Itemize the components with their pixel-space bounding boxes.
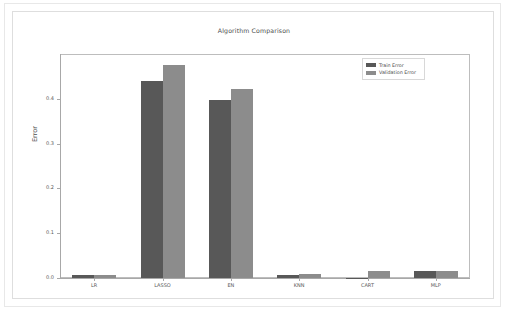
y-tick-label: 0.0 [46, 274, 54, 280]
y-tick-label: 0.4 [46, 95, 54, 101]
plot-area [60, 54, 470, 278]
x-tick-label: CART [346, 282, 390, 288]
bar-validation-error [231, 89, 253, 278]
legend-label-train: Train Error [379, 63, 404, 68]
x-tick-mark [163, 278, 164, 281]
bar-group: LR [72, 54, 116, 278]
x-tick-label: EN [209, 282, 253, 288]
bar-train-error [414, 271, 436, 278]
bar-validation-error [94, 275, 116, 278]
y-tick-mark [57, 99, 60, 100]
bar-group: LASSO [141, 54, 185, 278]
bar-validation-error [436, 271, 458, 278]
bar-group: CART [346, 54, 390, 278]
x-tick-label: MLP [414, 282, 458, 288]
chart-title: Algorithm Comparison [13, 27, 495, 34]
y-axis-line [60, 54, 61, 278]
y-tick-mark [57, 188, 60, 189]
bar-validation-error [368, 271, 390, 278]
y-tick-label: 0.3 [46, 140, 54, 146]
y-tick-mark [57, 144, 60, 145]
bar-train-error [72, 275, 94, 278]
chart-legend: Train Error Validation Error [362, 58, 425, 80]
y-tick-label: 0.2 [46, 184, 54, 190]
chart-figure: Algorithm Comparison Error 0.00.10.20.30… [12, 11, 494, 299]
x-tick-mark [368, 278, 369, 281]
x-tick-label: LR [72, 282, 116, 288]
x-tick-label: LASSO [141, 282, 185, 288]
x-tick-label: KNN [277, 282, 321, 288]
legend-item: Validation Error [366, 69, 421, 76]
bar-group: EN [209, 54, 253, 278]
x-tick-mark [94, 278, 95, 281]
y-tick-mark [57, 278, 60, 279]
x-tick-mark [436, 278, 437, 281]
legend-swatch-validation [366, 71, 376, 75]
y-tick-label: 0.1 [46, 229, 54, 235]
legend-label-validation: Validation Error [379, 70, 416, 75]
legend-item: Train Error [366, 62, 421, 69]
legend-swatch-train [366, 63, 376, 67]
screenshot-root: Algorithm Comparison Error 0.00.10.20.30… [0, 0, 506, 311]
bar-train-error [209, 100, 231, 278]
bar-group: KNN [277, 54, 321, 278]
bar-group: MLP [414, 54, 458, 278]
y-axis-label: Error [31, 126, 39, 142]
y-tick-mark [57, 233, 60, 234]
x-tick-mark [299, 278, 300, 281]
bar-train-error [277, 275, 299, 278]
bar-validation-error [299, 274, 321, 278]
bar-validation-error [163, 65, 185, 278]
x-tick-mark [231, 278, 232, 281]
bar-train-error [141, 81, 163, 278]
x-axis-line [60, 278, 470, 279]
